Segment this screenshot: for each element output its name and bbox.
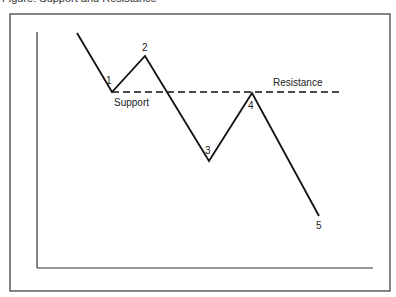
point-label-5: 5 bbox=[316, 220, 322, 231]
point-label-4: 4 bbox=[248, 100, 254, 111]
price-path bbox=[77, 33, 319, 216]
point-label-3: 3 bbox=[205, 145, 211, 156]
point-label-2: 2 bbox=[142, 42, 148, 53]
resistance-label: Resistance bbox=[273, 77, 323, 88]
support-label: Support bbox=[114, 97, 149, 108]
diagram-canvas: 1 2 3 4 5 Support Resistance bbox=[0, 0, 396, 297]
outer-frame bbox=[10, 14, 390, 291]
point-label-1: 1 bbox=[106, 75, 112, 86]
